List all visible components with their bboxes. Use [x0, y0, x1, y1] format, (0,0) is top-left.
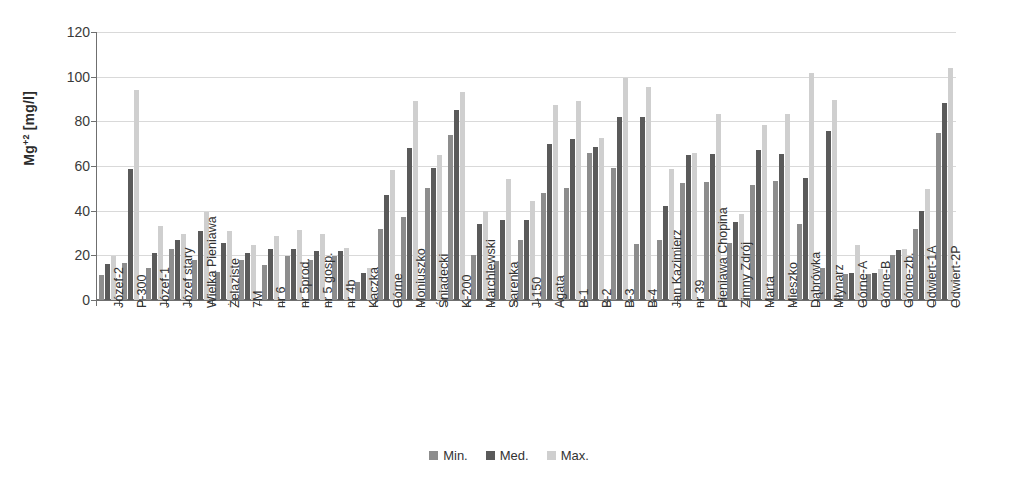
x-axis-label-cell: Górne-zb.: [887, 306, 910, 426]
bar-med: [500, 220, 505, 300]
bar-med: [849, 273, 854, 300]
x-axis-tick-label: Górne-B: [879, 261, 893, 308]
bar-med: [710, 154, 715, 300]
x-axis-tick-label: Marta: [763, 276, 777, 308]
x-axis-label-cell: Młynarz: [817, 306, 840, 426]
x-axis-label-cell: Odwiert-1A: [910, 306, 933, 426]
x-axis-tick-label: Moniuszko: [414, 248, 428, 308]
legend-item-med: Med.: [486, 448, 529, 463]
bar-min: [611, 168, 616, 300]
x-axis-label-cell: B-2: [584, 306, 607, 426]
bar-med: [524, 220, 529, 300]
bar-med: [291, 249, 296, 300]
x-axis-tick-label: Górne-zb.: [902, 252, 916, 308]
legend-label-min: Min.: [443, 448, 468, 463]
chart-figure: Mg+2 [mg/l] 020406080100120 Józef-2P-300…: [0, 0, 1018, 499]
x-axis-tick-label: K-200: [460, 275, 474, 308]
x-axis-label-cell: nr 39: [677, 306, 700, 426]
x-axis-label-cell: B-3: [608, 306, 631, 426]
bar-max: [460, 92, 465, 300]
x-axis-label-cell: Górne-A: [840, 306, 863, 426]
legend-swatch-max-icon: [547, 451, 556, 460]
x-axis-label-cell: Górne-B: [863, 306, 886, 426]
y-axis-tick-label: 100: [67, 69, 90, 85]
y-axis-title: Mg+2 [mg/l]: [14, 120, 44, 137]
x-axis-tick-label: Górne: [391, 273, 405, 308]
bar-med: [477, 224, 482, 300]
x-axis-label-cell: nr 6: [259, 306, 282, 426]
y-axis-tick-label: 20: [74, 247, 90, 263]
x-axis-label-cell: Józef stary: [166, 306, 189, 426]
x-axis-labels: Józef-2P-300Józef-1Józef staryWielka Pie…: [96, 306, 956, 426]
bar-med: [338, 251, 343, 300]
x-axis-label-cell: Pieniawa Chopina: [701, 306, 724, 426]
bar-max: [692, 153, 697, 300]
legend-swatch-med-icon: [486, 451, 495, 460]
x-axis-tick-label: J-150: [530, 277, 544, 308]
bar-group: [96, 32, 119, 300]
bar-min: [99, 275, 104, 300]
x-axis-tick-label: nr 39: [693, 280, 707, 309]
bar-med: [361, 273, 366, 300]
bar-med: [198, 231, 203, 300]
x-axis-label-cell: Marta: [747, 306, 770, 426]
bar-group: [119, 32, 142, 300]
bar-med: [407, 148, 412, 300]
x-axis-label-cell: Kaczka: [352, 306, 375, 426]
x-axis-label-cell: P-300: [119, 306, 142, 426]
x-axis-tick-label: Józef-2: [112, 267, 126, 308]
x-axis-tick-label: Górne-A: [856, 261, 870, 308]
bar-group: [770, 32, 793, 300]
x-axis-tick-label: Żelaziste: [228, 258, 242, 308]
x-axis-label-cell: Żelaziste: [212, 306, 235, 426]
x-axis-tick-label: Pieniawa Chopina: [716, 207, 730, 308]
bar-group: [584, 32, 607, 300]
x-axis-label-cell: Dąbrówka: [794, 306, 817, 426]
bar-med: [314, 251, 319, 300]
legend: Min. Med. Max.: [0, 448, 1018, 463]
x-axis-label-cell: Wielka Pieniawa: [189, 306, 212, 426]
x-axis-label-cell: Józef-2: [96, 306, 119, 426]
y-axis-tick-label: 80: [74, 113, 90, 129]
bar-med: [896, 250, 901, 300]
bar-max: [599, 138, 604, 300]
x-axis-tick-label: nr 6: [274, 286, 288, 308]
y-axis-tick-label: 120: [67, 24, 90, 40]
bar-max: [762, 125, 767, 300]
x-axis-label-cell: K-200: [445, 306, 468, 426]
x-axis-label-cell: Śniadecki: [422, 306, 445, 426]
plot-area: 020406080100120: [96, 32, 956, 300]
bar-max: [576, 101, 581, 300]
y-axis-title-unit: [mg/l]: [21, 91, 37, 134]
x-axis-tick-label: P-300: [135, 275, 149, 308]
legend-item-max: Max.: [547, 448, 589, 463]
legend-label-med: Med.: [500, 448, 529, 463]
y-axis-title-base: Mg: [21, 145, 37, 166]
bar-med: [803, 178, 808, 300]
bar-med: [454, 110, 459, 300]
x-axis-label-cell: Józef-1: [143, 306, 166, 426]
bar-max: [623, 78, 628, 300]
bar-med: [617, 117, 622, 300]
x-axis-label-cell: B-1: [561, 306, 584, 426]
bar-med: [756, 150, 761, 300]
bar-med: [570, 139, 575, 300]
bar-med: [640, 117, 645, 300]
bar-med: [268, 249, 273, 300]
bar-group: [631, 32, 654, 300]
bar-med: [175, 240, 180, 300]
bar-med: [431, 168, 436, 300]
legend-label-max: Max.: [561, 448, 589, 463]
y-axis-tick-label: 0: [82, 292, 90, 308]
x-axis-label-cell: nr 5prod.: [282, 306, 305, 426]
x-axis-label-cell: Mieszko: [770, 306, 793, 426]
x-axis-tick-label: Mieszko: [786, 262, 800, 308]
x-axis-label-cell: Zimny Zdrój: [724, 306, 747, 426]
bar-med: [128, 169, 133, 300]
x-axis-label-cell: nr 5 gosp.: [305, 306, 328, 426]
x-axis-tick-label: Jan Kazimierz: [670, 230, 684, 309]
x-axis-tick-label: Sarenka: [507, 261, 521, 308]
x-axis-tick-label: Marchlewski: [484, 239, 498, 308]
bar-med: [384, 195, 389, 300]
legend-item-min: Min.: [429, 448, 468, 463]
